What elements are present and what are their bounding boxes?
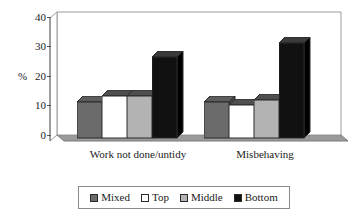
bar-side-face: [304, 37, 310, 138]
bar-chart: % 40 30 20 10 0: [0, 0, 363, 221]
bar-middle-work-not-done: [127, 90, 152, 139]
bar-front-face: [127, 96, 152, 138]
tick-mark-30: [47, 46, 51, 47]
bar-bottom-work-not-done: [152, 51, 177, 139]
bar-mixed-work-not-done: [77, 96, 102, 139]
tick-mark-40: [47, 17, 51, 18]
bar-front-face: [229, 105, 254, 138]
y-tick-20: 20: [22, 71, 46, 82]
y-tick-30: 30: [22, 41, 46, 52]
tick-mark-0: [47, 135, 51, 136]
bar-front-face: [279, 43, 304, 138]
bar-middle-misbehaving: [254, 94, 279, 139]
bar-front-face: [77, 102, 102, 138]
legend-item-bottom[interactable]: Bottom: [234, 192, 278, 203]
legend-item-mixed[interactable]: Mixed: [90, 192, 130, 203]
y-tick-40: 40: [22, 12, 46, 23]
legend-swatch-bottom-icon: [234, 194, 242, 202]
bar-front-face: [102, 96, 127, 138]
bar-front-face: [152, 57, 177, 138]
y-tick-0: 0: [22, 130, 46, 141]
bar-top-misbehaving: [229, 99, 254, 139]
x-category-label-work-not-done: Work not done/untidy: [53, 148, 223, 160]
bar-top-work-not-done: [102, 90, 127, 139]
legend-swatch-mixed-icon: [90, 194, 98, 202]
legend-label-middle: Middle: [191, 192, 223, 203]
legend-swatch-middle-icon: [180, 194, 188, 202]
tick-mark-20: [47, 76, 51, 77]
bar-side-face: [177, 51, 183, 138]
chart-legend: Mixed Top Middle Bottom: [78, 186, 290, 209]
bar-bottom-misbehaving: [279, 37, 304, 139]
x-category-label-misbehaving: Misbehaving: [205, 148, 325, 160]
legend-label-bottom: Bottom: [245, 192, 278, 203]
legend-label-mixed: Mixed: [101, 192, 130, 203]
bar-mixed-misbehaving: [204, 96, 229, 139]
legend-item-top[interactable]: Top: [141, 192, 169, 203]
legend-item-middle[interactable]: Middle: [180, 192, 223, 203]
y-tick-10: 10: [22, 100, 46, 111]
bar-front-face: [254, 100, 279, 138]
legend-label-top: Top: [152, 192, 169, 203]
left-wall: [50, 12, 57, 141]
tick-mark-10: [47, 105, 51, 106]
bar-front-face: [204, 102, 229, 138]
legend-swatch-top-icon: [141, 194, 149, 202]
